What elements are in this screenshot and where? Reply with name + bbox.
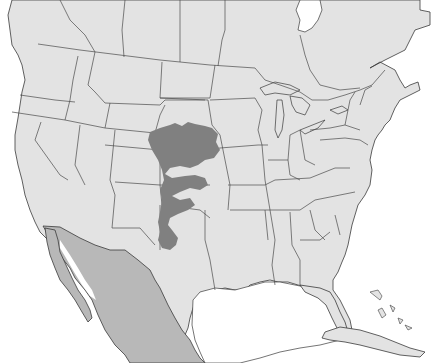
range-map bbox=[0, 0, 436, 363]
